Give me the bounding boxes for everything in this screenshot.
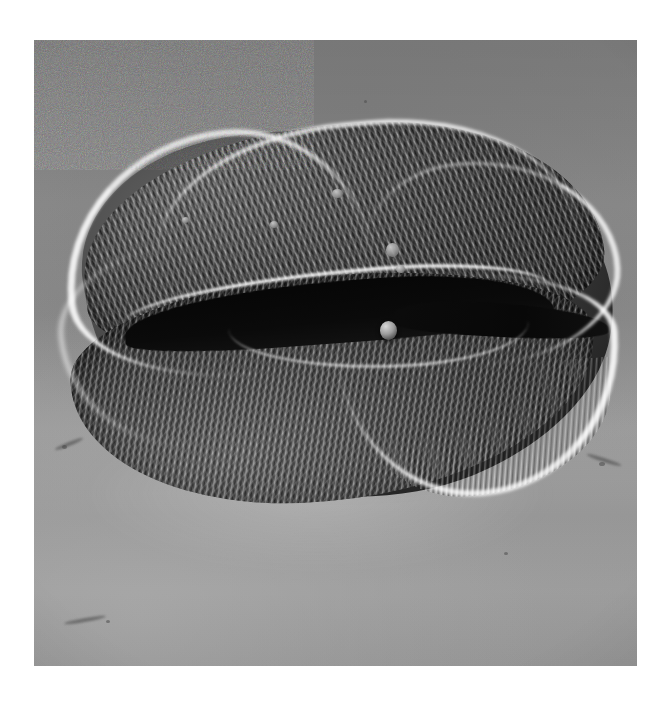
page-canvas — [0, 0, 671, 713]
debris-particle — [380, 321, 397, 340]
surface-bleb — [386, 243, 399, 257]
surface-bleb — [396, 265, 405, 273]
surface-bleb — [270, 221, 278, 228]
background-debris — [106, 620, 110, 623]
pollen-grain-specimen — [64, 125, 619, 500]
micrograph-plate — [34, 40, 637, 666]
surface-bleb — [182, 217, 189, 223]
background-debris — [364, 100, 367, 103]
surface-bleb — [332, 189, 343, 198]
